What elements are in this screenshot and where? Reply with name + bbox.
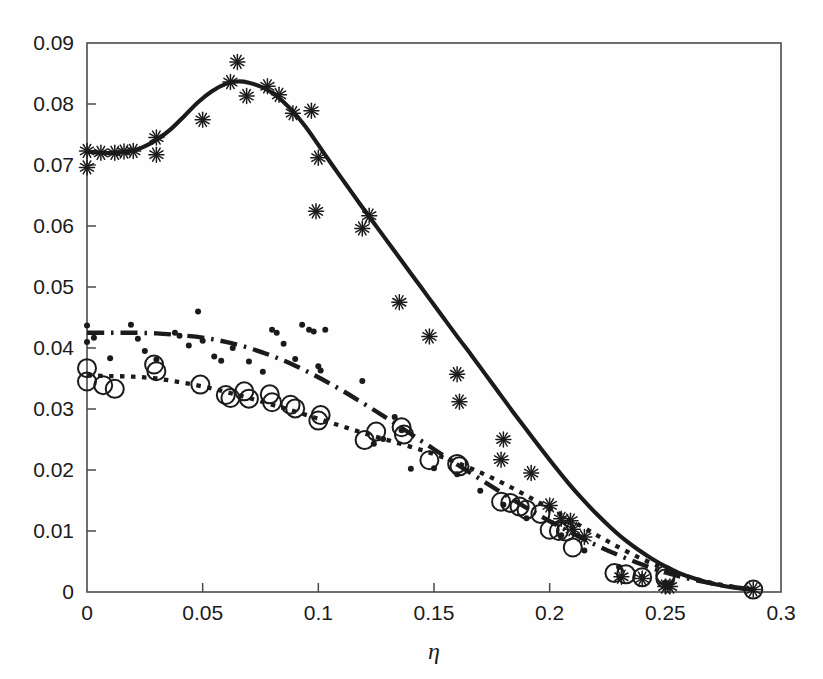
open-circle-marker	[356, 431, 374, 449]
x-tick-label: 0.05	[182, 601, 223, 624]
open-circle-marker	[286, 399, 304, 417]
y-tick-label: 0.04	[33, 336, 74, 359]
small-dot-marker	[500, 502, 506, 508]
small-dot-marker	[662, 580, 668, 586]
small-dot-marker	[477, 488, 483, 494]
asterisk-marker	[195, 112, 210, 127]
y-tick-label: 0.09	[33, 31, 74, 54]
small-dot-marker	[524, 515, 530, 521]
small-dot-marker	[218, 358, 224, 364]
asterisk-marker	[355, 221, 370, 236]
asterisk-marker	[309, 204, 324, 219]
x-tick-label: 0.1	[304, 601, 333, 624]
small-dot-marker	[292, 356, 298, 362]
asterisk-marker	[496, 432, 511, 447]
asterisk-marker	[149, 147, 164, 162]
y-tick-label: 0.08	[33, 92, 74, 115]
small-dot-marker	[91, 335, 97, 341]
asterisk-marker	[80, 143, 95, 158]
asterisk-marker	[93, 145, 108, 160]
asterisk-marker	[746, 582, 761, 597]
chart-canvas: 00.050.10.150.20.250.3 00.010.020.030.04…	[0, 0, 823, 679]
x-tick-label: 0.15	[414, 601, 455, 624]
y-tick-label: 0.02	[33, 458, 74, 481]
asterisk-marker	[304, 103, 319, 118]
small-dot-marker	[200, 338, 206, 344]
series-solid-curve	[87, 81, 753, 589]
small-dot-marker	[84, 339, 90, 345]
x-tick-label: 0.2	[535, 601, 564, 624]
small-dot-marker	[230, 345, 236, 351]
small-dot-marker	[454, 471, 460, 477]
asterisk-marker	[450, 367, 465, 382]
small-dot-marker	[322, 327, 328, 333]
small-dot-marker	[260, 369, 266, 375]
x-tick-label: 0	[81, 601, 93, 624]
small-dot-marker	[153, 357, 159, 363]
small-dot-marker	[177, 333, 183, 339]
small-dot-marker	[371, 441, 377, 447]
x-tick-label: 0.3	[766, 601, 795, 624]
x-axis-title: η	[428, 638, 440, 664]
small-dot-marker	[408, 466, 414, 472]
small-dot-marker	[431, 465, 437, 471]
asterisk-marker	[392, 295, 407, 310]
y-tick-label: 0	[62, 580, 74, 603]
small-dot-marker	[281, 341, 287, 347]
small-dot-marker	[195, 308, 201, 314]
series-markers	[78, 54, 762, 598]
small-dot-marker	[84, 322, 90, 328]
asterisk-marker	[494, 452, 509, 467]
small-dot-marker	[558, 532, 564, 538]
asterisk-marker	[524, 466, 539, 481]
open-circle-marker	[106, 380, 124, 398]
small-dot-marker	[399, 427, 405, 433]
asterisk-marker	[223, 75, 238, 90]
figure-root: 00.050.10.150.20.250.3 00.010.020.030.04…	[0, 0, 823, 679]
asterisk-marker	[422, 329, 437, 344]
small-dot-marker	[135, 336, 141, 342]
open-circle-marker	[564, 538, 582, 556]
x-axis-ticks: 00.050.10.150.20.250.3	[81, 583, 795, 624]
small-dot-marker	[299, 322, 305, 328]
small-dot-marker	[211, 354, 217, 360]
y-tick-label: 0.03	[33, 397, 74, 420]
asterisk-marker	[452, 394, 467, 409]
small-dot-marker	[616, 564, 622, 570]
y-tick-label: 0.06	[33, 214, 74, 237]
small-dot-marker	[311, 329, 317, 335]
small-dot-marker	[246, 358, 252, 364]
small-dot-marker	[107, 355, 113, 361]
y-tick-label: 0.05	[33, 275, 74, 298]
small-dot-marker	[581, 548, 587, 554]
small-dot-marker	[128, 322, 134, 328]
asterisk-marker	[80, 160, 95, 175]
axes-frame	[87, 43, 781, 592]
small-dot-marker	[186, 343, 192, 349]
small-dot-marker	[639, 574, 645, 580]
asterisk-marker	[230, 54, 245, 69]
small-dot-marker	[380, 436, 386, 442]
small-dot-marker	[392, 414, 398, 420]
open-circle-marker	[282, 396, 300, 414]
series-lines	[87, 81, 753, 589]
small-dot-marker	[359, 378, 365, 384]
y-tick-label: 0.07	[33, 153, 74, 176]
x-tick-label: 0.25	[645, 601, 686, 624]
asterisk-marker	[239, 89, 254, 104]
y-tick-label: 0.01	[33, 519, 74, 542]
open-circle-marker	[94, 376, 112, 394]
small-dot-marker	[318, 368, 324, 374]
small-dot-marker	[142, 348, 148, 354]
small-dot-marker	[274, 330, 280, 336]
